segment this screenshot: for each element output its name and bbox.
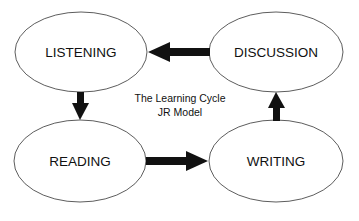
node-label-writing: WRITING: [247, 154, 306, 169]
node-listening: LISTENING: [15, 12, 147, 92]
arrow-listening-to-reading: [72, 92, 89, 120]
diagram-title: The Learning Cycle: [134, 92, 225, 104]
node-label-reading: READING: [49, 154, 111, 169]
node-reading: READING: [14, 120, 146, 202]
learning-cycle-diagram: LISTENING DISCUSSION READING WRITING The…: [0, 0, 359, 221]
node-writing: WRITING: [209, 120, 343, 202]
arrow-discussion-to-listening: [148, 42, 210, 62]
arrow-reading-to-writing: [146, 151, 208, 171]
node-label-listening: LISTENING: [45, 45, 116, 60]
diagram-subtitle: JR Model: [158, 106, 202, 118]
node-discussion: DISCUSSION: [209, 12, 343, 92]
node-label-discussion: DISCUSSION: [234, 45, 318, 60]
arrow-writing-to-discussion: [268, 92, 285, 121]
